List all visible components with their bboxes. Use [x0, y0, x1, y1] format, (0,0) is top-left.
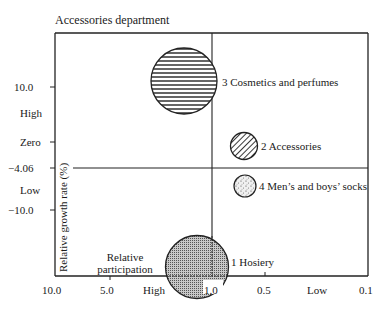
- y-tick-zero: Zero: [20, 137, 41, 148]
- x-tick-5: 5.0: [100, 285, 114, 296]
- chart-title: Accessories department: [55, 13, 169, 28]
- x-tick-0-1: 0.1: [359, 285, 373, 296]
- x-tick-0-5: 0.5: [257, 285, 271, 296]
- bubble-3-cosmetics: [151, 48, 217, 114]
- x-tick-1: 1.0: [204, 285, 218, 296]
- x-axis-label-line2: participation: [80, 264, 170, 275]
- y-tick-minus-10: −10.0: [8, 205, 33, 216]
- x-tick-10: 10.0: [42, 285, 61, 296]
- bubble-label-2: 2 Accessories: [261, 141, 321, 152]
- bubble-label-3: 3 Cosmetics and perfumes: [222, 77, 338, 88]
- x-region-high: High: [143, 285, 165, 296]
- y-region-high: High: [20, 108, 42, 119]
- x-region-low: Low: [307, 285, 327, 296]
- bubble-4-socks: [234, 175, 256, 197]
- y-region-low: Low: [20, 185, 40, 196]
- bubble-label-4: 4 Men’s and boys’ socks: [259, 181, 367, 192]
- y-ticks: [50, 87, 55, 210]
- x-axis-label-line1: Relative: [80, 252, 170, 263]
- y-tick-10: 10.0: [14, 82, 33, 93]
- bubble-2-accessories: [231, 133, 258, 160]
- bubble-label-1: 1 Hosiery: [231, 257, 274, 268]
- y-tick-minus-4-06: −4.06: [8, 163, 33, 174]
- y-axis-label: Relative growth rate (%): [58, 163, 69, 272]
